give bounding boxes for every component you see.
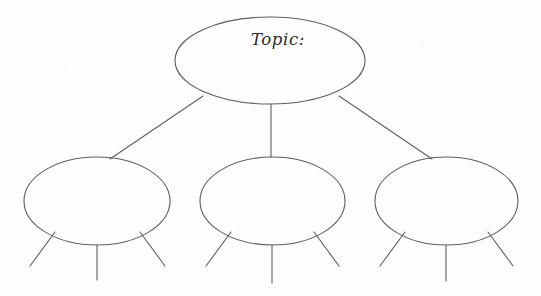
connector-group bbox=[110, 96, 432, 159]
graphic-organizer-canvas: Topic: bbox=[0, 0, 541, 296]
branch-node-right[interactable] bbox=[375, 157, 518, 245]
topic-label: Topic: bbox=[251, 30, 305, 49]
leg-left-node-1 bbox=[30, 232, 55, 266]
leg-middle-node-1 bbox=[206, 232, 231, 266]
branch-node-left[interactable] bbox=[24, 157, 170, 245]
detail-leg-group bbox=[30, 232, 513, 283]
branch-node-middle[interactable] bbox=[200, 157, 345, 245]
connector-topic-to-left bbox=[110, 96, 203, 159]
worksheet-page: Topic: bbox=[0, 0, 541, 296]
branch-node-group bbox=[24, 157, 518, 245]
leg-right-node-1 bbox=[380, 232, 405, 266]
leg-right-node-3 bbox=[488, 232, 513, 266]
leg-middle-node-3 bbox=[314, 232, 339, 266]
leg-left-node-3 bbox=[140, 232, 165, 266]
connector-topic-to-right bbox=[339, 96, 432, 159]
